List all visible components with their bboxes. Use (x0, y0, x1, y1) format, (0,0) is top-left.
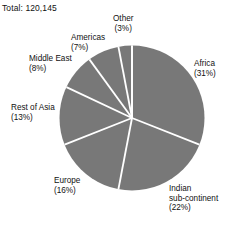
pie-label-africa-name: Africa (194, 59, 216, 69)
pie-label-other-name: Other (113, 14, 133, 24)
pie-label-europe: Europe (16%) (54, 176, 80, 195)
pie-label-indian-line2: sub-continent (169, 194, 218, 204)
pie-label-rest-of-asia: Rest of Asia (13%) (11, 103, 55, 122)
pie-label-africa: Africa (31%) (194, 59, 216, 78)
pie-label-rest-of-asia-pct: (13%) (11, 113, 55, 123)
pie-label-indian-pct: (22%) (169, 203, 218, 213)
pie-chart-figure: Total: 120,145 Other (3%) Americas (7%) … (0, 0, 233, 227)
pie-label-middle-east-pct: (8%) (29, 64, 72, 74)
pie-label-other: Other (3%) (113, 14, 133, 33)
pie-label-indian-line1: Indian (169, 184, 218, 194)
pie-label-other-pct: (3%) (113, 24, 133, 34)
pie-label-americas-pct: (7%) (71, 43, 105, 53)
pie-label-americas: Americas (7%) (71, 33, 105, 52)
pie-label-africa-pct: (31%) (194, 69, 216, 79)
pie-label-indian-sub-continent: Indian sub-continent (22%) (169, 184, 218, 213)
pie-label-americas-name: Americas (71, 33, 105, 43)
pie-label-middle-east: Middle East (8%) (29, 54, 72, 73)
pie-label-middle-east-name: Middle East (29, 54, 72, 64)
pie-label-rest-of-asia-name: Rest of Asia (11, 103, 55, 113)
pie-label-europe-pct: (16%) (54, 186, 80, 196)
pie-label-europe-name: Europe (54, 176, 80, 186)
